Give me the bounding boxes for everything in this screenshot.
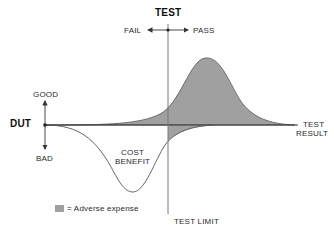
adverse-expense-area-lower	[168, 125, 215, 141]
benefit-label: BENEFIT	[115, 157, 150, 166]
pass-label: PASS	[193, 26, 215, 35]
test-result-label-1: TEST	[303, 120, 324, 129]
legend-swatch	[55, 205, 64, 212]
diagram-canvas	[0, 0, 334, 231]
good-label: GOOD	[33, 90, 58, 99]
diagram-title: TEST	[155, 8, 181, 17]
fail-label: FAIL	[124, 26, 141, 35]
adverse-expense-area-upper	[45, 58, 295, 125]
origin-dot	[43, 123, 47, 127]
origin-dot-top	[166, 28, 169, 31]
test-result-label-2: RESULT	[296, 129, 328, 138]
legend-text: = Adverse expense	[67, 204, 139, 213]
bad-label: BAD	[36, 154, 53, 163]
test-limit-label: TEST LIMIT	[174, 217, 219, 226]
cost-label: COST	[121, 148, 144, 157]
dut-label: DUT	[10, 119, 31, 128]
